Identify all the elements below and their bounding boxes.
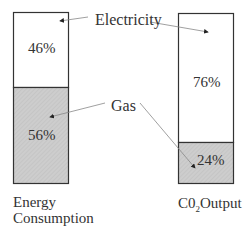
co2-electricity-value: 76% — [193, 74, 221, 91]
gas-label: Gas — [111, 98, 136, 114]
co2-gas-value: 24% — [197, 152, 225, 169]
energy-label-line1: Energy — [13, 194, 94, 210]
co2-output-label: C02Output — [178, 195, 242, 217]
energy-electricity-value: 46% — [28, 40, 56, 57]
co2-label-suffix: Output — [200, 195, 242, 211]
electricity-label: Electricity — [95, 12, 162, 28]
energy-label-line2: Consumption — [13, 210, 94, 226]
co2-label-prefix: C0 — [178, 195, 196, 211]
energy-gas-value: 56% — [28, 127, 56, 144]
energy-consumption-label: Energy Consumption — [13, 194, 94, 226]
energy-consumption-bar — [14, 13, 69, 184]
